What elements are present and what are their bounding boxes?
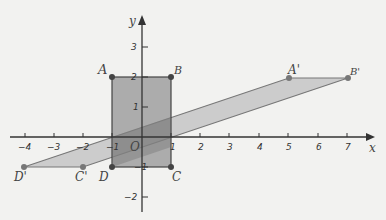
parallelogram-a-b-c-d-prime xyxy=(24,78,348,167)
y-tick-label: 1 xyxy=(133,102,139,112)
x-tick-label: −1 xyxy=(106,142,119,152)
x-tick-label: 4 xyxy=(257,142,263,152)
label-c-prime: C' xyxy=(75,170,87,184)
x-tick-label: 5 xyxy=(286,142,292,152)
x-tick-label: −2 xyxy=(76,142,90,152)
y-tick-label: 2 xyxy=(131,72,137,82)
label-d: D xyxy=(98,170,109,184)
label-a-prime: A' xyxy=(287,63,300,77)
y-axis-label: y xyxy=(128,14,136,28)
x-tick-label: 3 xyxy=(227,142,233,152)
x-tick-label: 7 xyxy=(345,142,351,152)
label-b-prime: B' xyxy=(349,66,360,77)
y-tick-label: −1 xyxy=(134,162,147,172)
x-axis-arrow-icon xyxy=(366,133,375,141)
x-tick-label: 1 xyxy=(170,142,176,152)
y-tick-label: 3 xyxy=(131,42,137,52)
y-axis-arrow-icon xyxy=(138,15,146,25)
coordinate-diagram: −4 −3 −2 −1 1 2 3 4 5 6 7 x 3 2 1 −1 −2 … xyxy=(0,0,386,220)
x-axis-label: x xyxy=(369,141,376,155)
label-d-prime: D' xyxy=(13,170,27,184)
label-b: B xyxy=(173,64,182,77)
label-a: A xyxy=(97,62,107,77)
x-tick-label: −4 xyxy=(18,142,32,152)
x-tick-label: −3 xyxy=(47,142,61,152)
origin-label: O xyxy=(130,140,140,154)
x-tick-label: 6 xyxy=(316,142,322,152)
y-tick-label: −2 xyxy=(124,192,138,202)
label-c: C xyxy=(172,170,181,184)
x-tick-label: 2 xyxy=(198,142,204,152)
